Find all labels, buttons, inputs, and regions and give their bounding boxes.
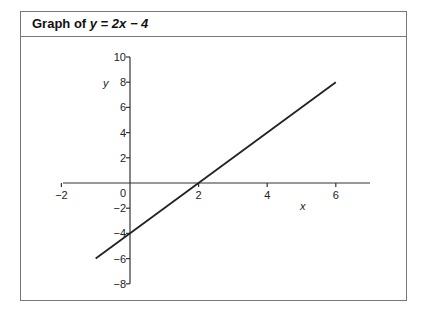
y-tick-label: 2 [120,152,126,164]
y-tick-label: −6 [113,253,126,265]
x-tick-label: −2 [55,189,68,201]
y-tick-label: −2 [113,202,126,214]
x-axis-label: x [299,200,306,212]
data-line [96,82,336,258]
x-tick-label: 6 [333,189,339,201]
y-tick-label: −8 [113,278,126,290]
y-tick-label: 10 [114,51,126,63]
x-tick-label: 2 [196,189,202,201]
y-tick-label: 0 [120,187,126,199]
y-tick-label: 4 [120,127,126,139]
y-tick-label: 6 [120,101,126,113]
y-axis-label: y [102,77,110,89]
y-tick-label: 8 [120,76,126,88]
chart-plot: −22461086420−2−4−6−8yx [0,0,429,318]
x-tick-label: 4 [264,189,270,201]
